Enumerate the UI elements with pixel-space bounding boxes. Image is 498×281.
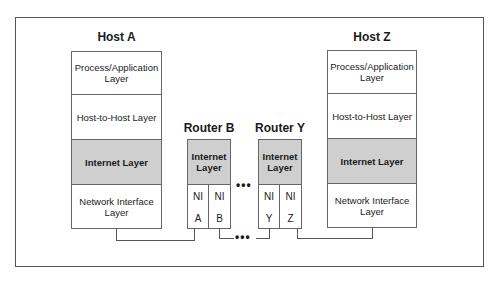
router-y-ni-z: NI Z — [280, 185, 301, 228]
ni-label: NI — [259, 191, 279, 202]
ellipsis-link: ••• — [235, 233, 251, 241]
host-z-stack: Process/Application Layer Host-to-Host L… — [327, 50, 417, 228]
router-y-internet-layer: Internet Layer — [259, 140, 301, 185]
host-z-network-interface-layer: Network Interface Layer — [328, 184, 416, 227]
host-a-network-interface-layer: Network Interface Layer — [72, 185, 161, 228]
host-z-process-layer: Process/Application Layer — [328, 51, 416, 94]
router-b-ni-a: NI A — [188, 185, 209, 228]
host-a-stack: Process/Application Layer Host-to-Host L… — [71, 51, 162, 229]
link-router-b-up — [194, 228, 195, 241]
host-a-internet-layer: Internet Layer — [72, 140, 161, 185]
link-router-y-in — [256, 238, 270, 239]
router-y-stack: Internet Layer NI Y NI Z — [258, 139, 302, 229]
router-b-ni-b: NI B — [209, 185, 230, 228]
host-a-title: Host A — [71, 30, 162, 44]
ellipsis-routers: ••• — [236, 181, 252, 189]
host-z-internet-layer: Internet Layer — [328, 139, 416, 184]
ni-label: NI — [209, 191, 230, 202]
host-z-title: Host Z — [327, 30, 417, 44]
link-host-z-up — [372, 228, 373, 239]
host-z-host-to-host-layer: Host-to-Host Layer — [328, 94, 416, 139]
ni-id: Y — [259, 213, 279, 224]
router-y-title: Router Y — [251, 121, 309, 135]
router-b-stack: Internet Layer NI A NI B — [187, 139, 231, 229]
link-router-y-host-z — [297, 238, 373, 239]
router-b-internet-layer: Internet Layer — [188, 140, 230, 185]
router-b-title: Router B — [180, 121, 238, 135]
ni-id: Z — [280, 213, 301, 224]
router-y-ni-y: NI Y — [259, 185, 280, 228]
link-router-y-ni-y-up — [269, 228, 270, 239]
ni-label: NI — [280, 191, 301, 202]
host-a-host-to-host-layer: Host-to-Host Layer — [72, 95, 161, 140]
host-a-process-layer: Process/Application Layer — [72, 52, 161, 95]
link-router-b-out — [219, 238, 234, 239]
ni-id: A — [188, 213, 208, 224]
link-host-a-router-b — [116, 240, 195, 241]
ni-label: NI — [188, 191, 208, 202]
ni-id: B — [209, 213, 230, 224]
